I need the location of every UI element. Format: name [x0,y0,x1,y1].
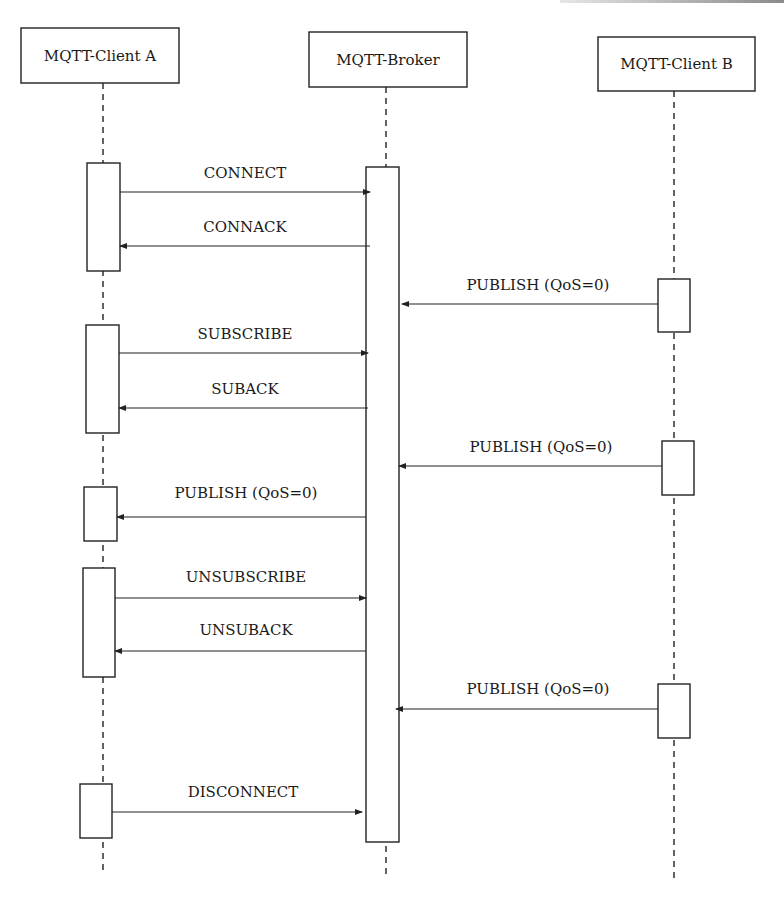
activation-bar-b [658,279,690,332]
message-suback: SUBACK [119,380,368,408]
message-label: PUBLISH (QoS=0) [470,438,613,456]
message-connect: CONNECT [120,164,370,192]
message-label: SUBACK [211,380,279,398]
message-label: DISCONNECT [188,783,299,801]
message-label: PUBLISH (QoS=0) [467,276,610,294]
actor-label: MQTT-Broker [336,51,440,69]
message-publish-qos-0: PUBLISH (QoS=0) [399,438,662,466]
message-unsubscribe: UNSUBSCRIBE [115,568,366,598]
actor-a: MQTT-Client A [21,28,179,83]
actor-label: MQTT-Client B [620,55,733,73]
message-unsuback: UNSUBACK [115,621,366,651]
actors: MQTT-Client AMQTT-BrokerMQTT-Client B [21,28,755,91]
message-subscribe: SUBSCRIBE [119,325,368,353]
actor-label: MQTT-Client A [44,47,156,65]
activation-bar-a [86,325,119,433]
message-label: SUBSCRIBE [198,325,293,343]
message-label: UNSUBACK [199,621,293,639]
message-publish-qos-0: PUBLISH (QoS=0) [402,276,658,304]
message-label: PUBLISH (QoS=0) [175,484,318,502]
activation-bar-a [84,487,117,541]
sequence-diagram: CONNECTCONNACKPUBLISH (QoS=0)SUBSCRIBESU… [0,0,784,902]
message-label: UNSUBSCRIBE [186,568,307,586]
message-label: CONNACK [203,218,287,236]
message-label: PUBLISH (QoS=0) [467,680,610,698]
message-disconnect: DISCONNECT [112,783,362,812]
activation-bar-a [83,568,115,677]
activation-bar-a [87,163,120,271]
activation-bar-broker [366,167,399,842]
message-publish-qos-0: PUBLISH (QoS=0) [396,680,658,709]
activation-bars [80,163,694,842]
message-publish-qos-0: PUBLISH (QoS=0) [117,484,366,517]
actor-broker: MQTT-Broker [309,32,467,87]
activation-bar-b [662,441,694,495]
actor-b: MQTT-Client B [598,37,755,91]
message-label: CONNECT [204,164,286,182]
activation-bar-a [80,784,112,838]
message-connack: CONNACK [120,218,370,246]
activation-bar-b [658,684,690,738]
